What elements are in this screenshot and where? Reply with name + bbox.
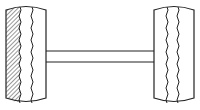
right-tire <box>154 7 194 104</box>
left-tire <box>6 7 46 104</box>
axle <box>46 51 154 62</box>
tire-axle-diagram <box>0 0 200 110</box>
hatched-sidewall <box>6 7 20 103</box>
